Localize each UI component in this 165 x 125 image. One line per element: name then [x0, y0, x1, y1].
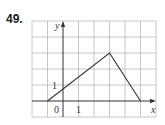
x-tick-label: 1 — [76, 104, 81, 115]
axes — [32, 25, 154, 117]
origin-label: 0 — [54, 104, 59, 115]
graph: y x 0 1 1 — [0, 0, 165, 125]
y-axis-arrow-icon — [61, 21, 65, 27]
x-axis-arrow-icon — [150, 99, 156, 103]
grid — [32, 21, 156, 117]
y-axis-label: y — [54, 20, 60, 31]
x-axis-label: x — [150, 104, 156, 115]
y-tick-label: 1 — [52, 80, 57, 91]
